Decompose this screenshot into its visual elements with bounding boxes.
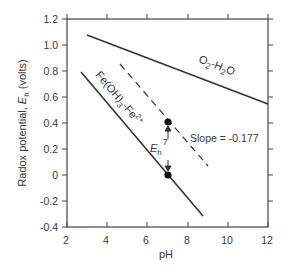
svg-text:1.2: 1.2 <box>43 13 58 25</box>
x-tick-labels: 2 4 6 8 10 12 <box>63 234 273 246</box>
y-axis-label: Radox potential, Eh (volts) <box>16 59 31 186</box>
eh7-label: Eh7 <box>150 137 168 157</box>
svg-text:12: 12 <box>261 234 273 246</box>
slope-label: Slope = -0.177 <box>190 132 259 144</box>
eh-ph-chart: 1.2 1.0 0.8 0.6 0.4 0.2 0 -0.2 -0.4 2 4 … <box>0 0 295 272</box>
eh7-arrows <box>165 126 171 171</box>
svg-text:0.6: 0.6 <box>43 91 58 103</box>
svg-text:2: 2 <box>63 234 69 246</box>
svg-text:0: 0 <box>52 169 58 181</box>
svg-text:0.4: 0.4 <box>43 117 58 129</box>
svg-text:-0.2: -0.2 <box>40 195 58 207</box>
svg-text:0.2: 0.2 <box>43 143 58 155</box>
svg-text:10: 10 <box>221 234 233 246</box>
o2-h2o-label: O2-H2O <box>196 53 237 81</box>
lower-data-point <box>164 171 171 178</box>
svg-text:6: 6 <box>143 234 149 246</box>
svg-text:8: 8 <box>184 234 190 246</box>
svg-text:-0.4: -0.4 <box>40 221 58 233</box>
fe-label: Fe(OH)3-Fe2+ <box>91 68 146 130</box>
x-axis-label: pH <box>159 248 173 260</box>
svg-text:4: 4 <box>103 234 109 246</box>
svg-text:1.0: 1.0 <box>43 39 58 51</box>
y-tick-labels: 1.2 1.0 0.8 0.6 0.4 0.2 0 -0.2 -0.4 <box>40 13 58 233</box>
upper-data-point <box>164 118 171 125</box>
fe-line <box>81 72 203 216</box>
svg-text:0.8: 0.8 <box>43 65 58 77</box>
